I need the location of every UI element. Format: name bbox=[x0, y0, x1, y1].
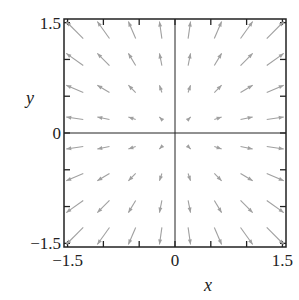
vector-arrow bbox=[128, 227, 135, 244]
vector-arrow bbox=[97, 85, 109, 92]
vector-arrow bbox=[158, 200, 162, 212]
vector-arrow bbox=[97, 173, 109, 180]
vector-arrow bbox=[214, 200, 221, 212]
vector-arrow bbox=[241, 85, 253, 92]
vector-arrow bbox=[241, 53, 253, 65]
vector-arrow bbox=[128, 53, 135, 65]
vector-arrow bbox=[188, 53, 192, 65]
vector-arrow bbox=[128, 117, 135, 121]
vector-arrow bbox=[188, 22, 192, 39]
zero-axis-lines bbox=[64, 19, 286, 247]
vector-arrow bbox=[158, 53, 162, 65]
vector-arrow bbox=[97, 116, 109, 120]
vector-arrow bbox=[97, 200, 109, 212]
vector-arrow bbox=[128, 85, 135, 92]
vector-arrow bbox=[158, 22, 162, 39]
vector-arrow bbox=[128, 200, 135, 212]
vector-arrow bbox=[186, 117, 191, 122]
x-tick-label: 1.5 bbox=[272, 251, 293, 270]
vector-arrow bbox=[241, 146, 253, 150]
vector-arrow bbox=[159, 117, 164, 122]
vector-arrow bbox=[214, 145, 221, 149]
vector-arrow bbox=[66, 173, 83, 180]
vector-arrow bbox=[187, 85, 191, 92]
vector-arrow bbox=[187, 173, 191, 180]
vector-field-plot: −1.501.51.50−1.5 x y bbox=[0, 0, 299, 300]
vector-arrow bbox=[159, 85, 163, 92]
vector-arrow bbox=[128, 173, 135, 180]
x-tick-label: −1.5 bbox=[52, 251, 83, 270]
vector-arrow bbox=[214, 22, 221, 39]
vector-arrow bbox=[188, 200, 192, 212]
vector-arrow bbox=[186, 144, 191, 149]
vector-arrow bbox=[214, 53, 221, 65]
vector-arrow bbox=[267, 227, 284, 244]
vector-arrow bbox=[214, 117, 221, 121]
vector-arrow bbox=[159, 144, 164, 149]
y-tick-label: −1.5 bbox=[30, 234, 61, 253]
vector-arrow bbox=[159, 173, 163, 180]
vector-arrow bbox=[97, 146, 109, 150]
x-axis-label: x bbox=[203, 275, 212, 295]
vector-arrow bbox=[214, 227, 221, 244]
vector-arrow bbox=[267, 85, 284, 92]
vector-arrow bbox=[241, 200, 253, 212]
vector-arrow bbox=[241, 116, 253, 120]
vector-arrow bbox=[66, 146, 83, 150]
vector-arrow bbox=[128, 145, 135, 149]
vector-arrow bbox=[241, 173, 253, 180]
vector-arrow bbox=[188, 227, 192, 244]
vector-arrow bbox=[66, 116, 83, 120]
vector-arrow bbox=[97, 53, 109, 65]
x-tick-label: 0 bbox=[171, 251, 180, 270]
vector-arrow bbox=[158, 227, 162, 244]
vector-arrow bbox=[267, 22, 284, 39]
vector-arrow bbox=[214, 173, 221, 180]
vector-arrow bbox=[267, 116, 284, 120]
vector-arrow bbox=[66, 227, 83, 244]
vector-arrow bbox=[66, 85, 83, 92]
vector-arrow bbox=[267, 173, 284, 180]
y-axis-label: y bbox=[24, 88, 34, 108]
vector-arrow bbox=[66, 22, 83, 39]
vector-arrow bbox=[267, 146, 284, 150]
y-tick-label: 0 bbox=[53, 124, 62, 143]
vector-arrow bbox=[214, 85, 221, 92]
y-tick-label: 1.5 bbox=[40, 14, 61, 33]
vector-arrow bbox=[128, 22, 135, 39]
